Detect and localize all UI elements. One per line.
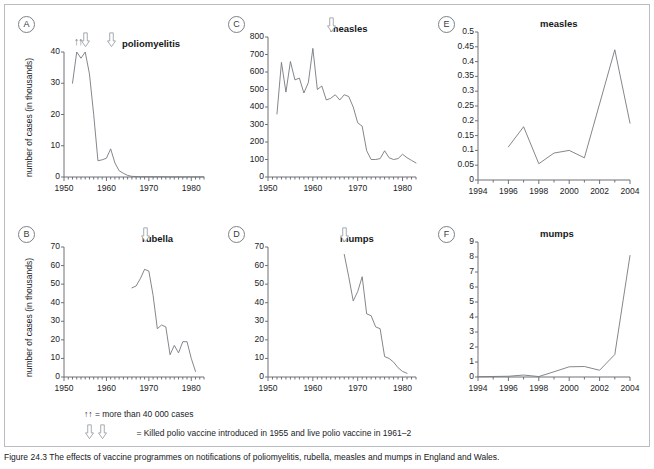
y-tick-label: 0.35	[430, 70, 474, 80]
axis-lines	[478, 242, 630, 377]
y-tick-label: 0	[430, 174, 474, 184]
y-tick-label: 50	[16, 278, 60, 288]
panel-f: F0123456789199419961998200020022004mumps	[432, 222, 646, 407]
data-series-c	[277, 48, 416, 163]
y-tick-label: 0.15	[430, 130, 474, 140]
data-series-d	[344, 254, 407, 373]
x-tick-label: 1998	[522, 383, 556, 393]
figure-container: A0102030401950196019701980number of case…	[0, 0, 654, 469]
up-arrow-icon: ↑↑	[84, 409, 93, 419]
axis-lines	[268, 37, 416, 177]
y-tick-label: 8	[430, 251, 474, 261]
y-tick-label: 30	[16, 77, 60, 87]
y-tick-label: 100	[220, 154, 264, 164]
x-tick-label: 1960	[296, 383, 330, 393]
x-tick-label: 2000	[552, 383, 586, 393]
x-tick-label: 1998	[522, 186, 556, 196]
y-axis-label: number of cases (in thousands)	[24, 58, 34, 177]
y-tick-label: 0.4	[430, 56, 474, 66]
x-tick-label: 1996	[491, 383, 525, 393]
down-arrow-icon-pair	[84, 428, 108, 438]
x-tick-label: 1980	[174, 383, 208, 393]
y-tick-label: 10	[16, 352, 60, 362]
y-tick-label: 0	[220, 371, 264, 381]
y-tick-label: 200	[220, 136, 264, 146]
y-tick-label: 20	[220, 334, 264, 344]
figure-caption: Figure 24.3 The effects of vaccine progr…	[4, 452, 650, 462]
y-tick-label: 2	[430, 341, 474, 351]
panel-a: A0102030401950196019701980number of case…	[12, 12, 217, 212]
y-tick-label: 60	[16, 260, 60, 270]
y-tick-label: 4	[430, 311, 474, 321]
x-tick-label: 1970	[132, 183, 166, 193]
x-tick-label: 1970	[341, 183, 375, 193]
x-tick-label: 2004	[613, 186, 647, 196]
y-tick-label: 0.25	[430, 100, 474, 110]
data-series-e	[508, 50, 630, 164]
x-tick-label: 1970	[341, 383, 375, 393]
x-tick-label: 1950	[251, 183, 285, 193]
y-tick-label: 0.45	[430, 41, 474, 51]
x-tick-label: 1960	[89, 183, 123, 193]
y-tick-label: 0.2	[430, 115, 474, 125]
axis-lines	[64, 247, 204, 377]
x-tick-label: 1994	[461, 186, 495, 196]
plot-title-a: poliomyelitis	[122, 38, 180, 49]
y-tick-label: 1	[430, 356, 474, 366]
y-tick-label: 700	[220, 49, 264, 59]
y-tick-label: 70	[16, 241, 60, 251]
y-axis-label: number of cases (in thousands)	[24, 258, 34, 377]
y-tick-label: 40	[16, 46, 60, 56]
axis-lines	[268, 247, 416, 377]
x-tick-label: 2000	[552, 186, 586, 196]
data-series-a	[72, 52, 204, 177]
y-tick-label: 800	[220, 31, 264, 41]
x-tick-label: 1970	[132, 383, 166, 393]
y-tick-label: 500	[220, 84, 264, 94]
x-tick-label: 2002	[583, 186, 617, 196]
y-tick-label: 40	[16, 297, 60, 307]
vaccine-introduction-arrow-icon	[326, 17, 337, 33]
y-tick-label: 20	[16, 334, 60, 344]
vaccine-introduction-arrow-icon	[80, 32, 91, 48]
plot-area-c	[222, 12, 427, 212]
y-tick-label: 40	[220, 297, 264, 307]
y-tick-label: 0	[16, 171, 60, 181]
legend-down-arrow-text: = Killed polio vaccine introduced in 195…	[136, 428, 411, 438]
plot-title-f: mumps	[540, 228, 574, 239]
y-tick-label: 600	[220, 66, 264, 76]
y-tick-label: 9	[430, 236, 474, 246]
y-tick-label: 0.3	[430, 85, 474, 95]
y-tick-label: 10	[16, 140, 60, 150]
y-tick-label: 0	[220, 171, 264, 181]
y-tick-label: 6	[430, 281, 474, 291]
panel-b: B0102030405060701950196019701980number o…	[12, 222, 217, 407]
y-tick-label: 70	[220, 241, 264, 251]
y-tick-label: 300	[220, 119, 264, 129]
y-tick-label: 0.1	[430, 144, 474, 154]
x-tick-label: 2004	[613, 383, 647, 393]
vaccine-introduction-arrow-icon	[339, 227, 350, 243]
legend-up-arrow-text: = more than 40 000 cases	[95, 409, 194, 419]
y-tick-label: 0	[16, 371, 60, 381]
y-tick-label: 0.05	[430, 159, 474, 169]
plot-title-e: measles	[540, 18, 578, 29]
y-tick-label: 30	[220, 315, 264, 325]
panel-d: D0102030405060701950196019701980mumps	[222, 222, 427, 407]
x-tick-label: 1950	[47, 183, 81, 193]
data-series-f	[478, 256, 630, 377]
legend-row-down-arrows: = Killed polio vaccine introduced in 195…	[84, 424, 411, 440]
y-tick-label: 20	[16, 109, 60, 119]
x-tick-label: 2002	[583, 383, 617, 393]
y-tick-label: 5	[430, 296, 474, 306]
y-tick-label: 60	[220, 260, 264, 270]
y-tick-label: 0.5	[430, 26, 474, 36]
y-tick-label: 0	[430, 371, 474, 381]
legend-row-up-arrows: ↑↑ = more than 40 000 cases	[84, 409, 193, 419]
vaccine-introduction-arrow-icon	[140, 227, 151, 243]
x-tick-label: 1996	[491, 186, 525, 196]
axis-lines	[64, 52, 204, 177]
x-tick-label: 1960	[89, 383, 123, 393]
panel-c: C010020030040050060070080019501960197019…	[222, 12, 427, 212]
x-tick-label: 1950	[251, 383, 285, 393]
